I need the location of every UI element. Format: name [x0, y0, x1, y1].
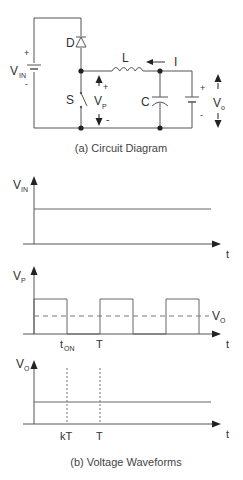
vp-axis-sub: P	[21, 277, 26, 284]
t-period-label: T	[96, 430, 103, 442]
kt-label: kT	[60, 430, 73, 442]
t-label: t	[226, 248, 229, 260]
vin-sub: IN	[19, 72, 26, 79]
circuit-caption: (a) Circuit Diagram	[75, 142, 167, 154]
vin-label: V	[10, 64, 18, 78]
capacitor-c: C	[141, 95, 168, 109]
current-label: I	[174, 55, 177, 69]
y-axis-arrow-icon	[31, 266, 38, 275]
chart-vo: V O kT T t	[16, 357, 229, 442]
chart-vp: V P V O t ON T t	[13, 266, 229, 352]
vo-axis-label: V	[16, 357, 24, 371]
vo-annotation-sub: O	[220, 317, 226, 324]
vin-axis-label: V	[13, 178, 21, 192]
switch-s: S	[66, 92, 87, 108]
vo-annotation-label: V	[212, 309, 220, 323]
circuit-diagram: + - V IN D S L	[10, 18, 225, 154]
figure: + - V IN D S L	[0, 0, 243, 480]
switch-label: S	[66, 93, 74, 107]
vo-label: V	[213, 96, 221, 110]
output-battery: + -	[185, 83, 205, 120]
vp-sub: P	[102, 103, 107, 110]
vp-axis-label: V	[13, 269, 21, 283]
ton-label: t	[60, 338, 63, 350]
vo-sub: o	[221, 104, 225, 111]
vo-indicator: V o	[213, 74, 225, 128]
t-period-label: T	[96, 338, 103, 350]
waveforms-caption: (b) Voltage Waveforms	[70, 456, 182, 468]
x-axis-arrow-icon	[212, 331, 221, 338]
vo-axis-sub: O	[24, 365, 30, 372]
vp-indicator: + - V P	[94, 75, 109, 126]
current-arrow: I	[146, 55, 177, 69]
y-axis-arrow-icon	[31, 360, 38, 369]
vin-plus: +	[24, 48, 29, 58]
ton-sub: ON	[64, 345, 75, 352]
vin-battery: + - V IN	[10, 48, 41, 89]
t-label: t	[226, 428, 229, 440]
diode-d: D	[66, 36, 86, 50]
vp-label: V	[94, 94, 102, 108]
nodes	[78, 68, 162, 130]
x-axis-arrow-icon	[212, 421, 221, 428]
vp-plus: +	[103, 82, 108, 92]
chart-vin: V IN t	[13, 176, 229, 260]
inductor-l: L	[112, 51, 143, 71]
wires	[34, 18, 192, 128]
inductor-label: L	[122, 51, 129, 65]
x-axis-arrow-icon	[212, 241, 221, 248]
vp-minus: -	[106, 114, 109, 125]
y-axis-arrow-icon	[31, 176, 38, 185]
t-label: t	[226, 338, 229, 350]
vin-minus: -	[25, 79, 28, 89]
capacitor-label: C	[141, 95, 150, 109]
vin-axis-sub: IN	[21, 186, 28, 193]
diode-label: D	[66, 36, 75, 50]
vo-minus: -	[200, 110, 203, 120]
vo-plus: +	[200, 83, 205, 93]
